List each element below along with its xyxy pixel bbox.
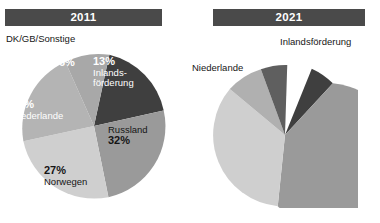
gas-import-pie-figure: 2011 DK/GB/Sonstige 13% Inlands- förderu… bbox=[0, 0, 380, 223]
chart-title-2011: 2011 bbox=[5, 9, 162, 26]
label-dk-gb-sonstige: DK/GB/Sonstige bbox=[6, 33, 75, 44]
pie-chart-2021 bbox=[212, 62, 358, 208]
chart-panel-2011: 2011 DK/GB/Sonstige 13% Inlands- förderu… bbox=[0, 0, 190, 223]
chart-title-2021: 2021 bbox=[213, 9, 365, 26]
pie-chart-2011 bbox=[20, 52, 168, 200]
chart-panel-2021: 2021 Inlandsförderung Niederlande 5% bbox=[190, 0, 380, 223]
label-inlandsfoerderung-2021: Inlandsförderung bbox=[280, 36, 351, 47]
pie-slice-russland-2021 bbox=[278, 83, 358, 208]
